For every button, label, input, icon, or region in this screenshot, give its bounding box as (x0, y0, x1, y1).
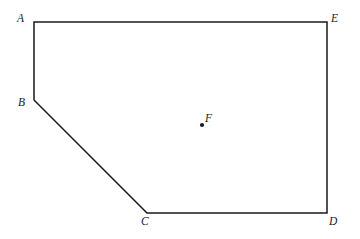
vertex-label-a: A (17, 13, 24, 25)
vertex-label-c: C (141, 216, 149, 228)
point-f-marker (200, 123, 204, 127)
figure-canvas (0, 0, 360, 239)
vertex-label-e: E (331, 13, 338, 25)
vertex-label-d: D (329, 216, 337, 228)
geometry-figure: A B C D E F (0, 0, 360, 239)
vertex-label-b: B (18, 97, 25, 109)
vertex-label-f: F (205, 113, 212, 125)
